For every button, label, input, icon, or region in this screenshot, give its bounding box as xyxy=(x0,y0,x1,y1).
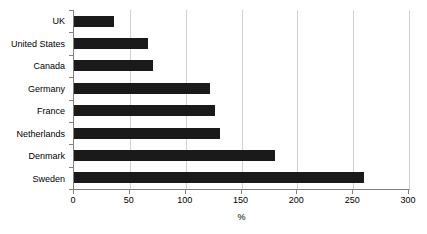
y-axis-label-item: Sweden xyxy=(0,168,69,191)
bar-row xyxy=(74,77,409,99)
x-axis-tick-marks xyxy=(73,190,410,194)
bar-row xyxy=(74,10,409,32)
y-axis-tick-label: France xyxy=(37,106,65,116)
bar-row xyxy=(74,100,409,122)
y-axis-labels: UK United States Canada Germany France N… xyxy=(0,10,69,190)
bar-row xyxy=(74,55,409,77)
x-axis-tick-label: 100 xyxy=(177,195,192,206)
y-axis-tick-label: Denmark xyxy=(28,151,65,161)
bar xyxy=(74,150,275,161)
bar xyxy=(74,16,114,27)
bar xyxy=(74,105,215,116)
bar-row xyxy=(74,122,409,144)
y-axis-label-item: United States xyxy=(0,33,69,56)
y-axis-label-item: France xyxy=(0,100,69,123)
x-axis-tick-mark xyxy=(129,190,130,194)
bar xyxy=(74,38,148,49)
x-axis-title: % xyxy=(73,212,410,223)
bar xyxy=(74,128,220,139)
y-axis-tick-label: Germany xyxy=(28,84,65,94)
y-axis-tick-label: UK xyxy=(52,16,65,26)
bar xyxy=(74,60,153,71)
y-axis-label-item: Netherlands xyxy=(0,123,69,146)
x-axis-tick-mark xyxy=(296,190,297,194)
x-axis-tick-label: 0 xyxy=(70,195,75,206)
x-axis-tick-label: 150 xyxy=(233,195,248,206)
gridline xyxy=(409,10,410,189)
x-axis-tick-mark xyxy=(73,190,74,194)
bar-row xyxy=(74,32,409,54)
y-axis-tick-label: Canada xyxy=(33,61,65,71)
bar-row xyxy=(74,167,409,189)
x-axis-tick-mark xyxy=(185,190,186,194)
x-axis-labels: 050100150200250300 xyxy=(73,195,410,207)
bar xyxy=(74,172,364,183)
bar-row xyxy=(74,144,409,166)
y-axis-tick-label: Netherlands xyxy=(16,129,65,139)
y-axis-label-item: UK xyxy=(0,10,69,33)
y-axis-label-item: Germany xyxy=(0,78,69,101)
y-axis-tick-label: United States xyxy=(11,39,65,49)
x-axis-tick-mark xyxy=(408,190,409,194)
y-axis-label-item: Canada xyxy=(0,55,69,78)
y-axis-label-item: Denmark xyxy=(0,145,69,168)
x-axis-tick-label: 50 xyxy=(124,195,134,206)
y-axis-tick-label: Sweden xyxy=(32,174,65,184)
plot-area xyxy=(73,10,410,190)
bar xyxy=(74,83,210,94)
bar-series xyxy=(74,10,409,189)
x-axis-tick-mark xyxy=(241,190,242,194)
x-axis-tick-label: 300 xyxy=(400,195,415,206)
x-axis-tick-label: 250 xyxy=(345,195,360,206)
bar-chart: UK United States Canada Germany France N… xyxy=(0,0,427,234)
x-axis-tick-label: 200 xyxy=(289,195,304,206)
x-axis-tick-mark xyxy=(352,190,353,194)
